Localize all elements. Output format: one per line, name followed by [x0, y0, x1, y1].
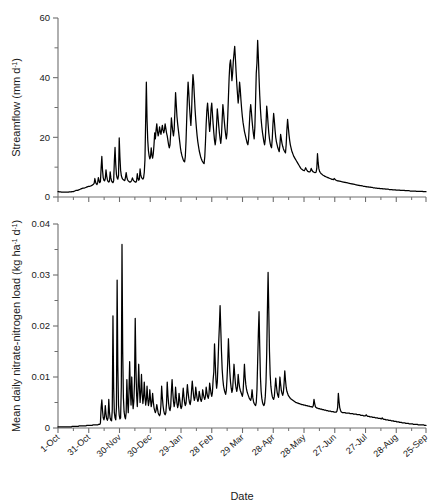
- y-tick-label: 20: [39, 132, 50, 143]
- streamflow-series-line: [58, 40, 426, 192]
- x-tick-label: 29 Mar: [218, 432, 246, 458]
- x-tick-label: 27-Jul: [344, 432, 369, 456]
- streamflow-plot: 0204060Streamflow (mm d-1): [0, 0, 442, 215]
- x-tick-label: 31-Oct: [65, 432, 92, 458]
- x-tick-label: 1-Oct: [38, 432, 61, 454]
- x-tick-label: 28-Apr: [250, 432, 277, 458]
- x-axis-title: Date: [230, 490, 253, 502]
- x-tick-label: 30-Dec: [125, 432, 154, 459]
- x-tick-label: 30-Nov: [95, 432, 124, 459]
- y-tick-label: 0: [45, 191, 50, 202]
- chart-panel-streamflow: 0204060Streamflow (mm d-1): [0, 0, 442, 215]
- y-tick-label: 40: [39, 72, 50, 83]
- y-axis-title-nitrate: Mean daily nitrate-nitrogen load (kg ha-…: [10, 220, 22, 432]
- x-tick-label: 29-Jan: [157, 432, 184, 458]
- x-tick-label: 28-Aug: [371, 432, 399, 459]
- y-axis-title-text: Streamflow (mm d-1): [10, 58, 22, 157]
- y-tick-label: 0.04: [32, 218, 51, 229]
- y-tick-label: 0: [45, 422, 50, 433]
- y-tick-label: 0.02: [32, 320, 51, 331]
- chart-panel-nitrate-load: 00.010.020.030.041-Oct31-Oct30-Nov30-Dec…: [0, 215, 442, 503]
- x-tick-label: 27-Jun: [311, 432, 338, 458]
- figure-container: 0204060Streamflow (mm d-1) 00.010.020.03…: [0, 0, 442, 503]
- nitrate-load-series-line: [58, 244, 426, 427]
- nitrate-load-plot: 00.010.020.030.041-Oct31-Oct30-Nov30-Dec…: [0, 215, 442, 503]
- y-tick-label: 0.01: [32, 371, 51, 382]
- x-tick-label: 28 Feb: [188, 432, 216, 458]
- x-tick-label: 25-Sep: [401, 432, 429, 459]
- x-tick-label: 28-May: [278, 432, 307, 460]
- y-tick-label: 60: [39, 12, 50, 23]
- y-axis-title-streamflow: Streamflow (mm d-1): [10, 58, 22, 157]
- y-tick-label: 0.03: [32, 269, 51, 280]
